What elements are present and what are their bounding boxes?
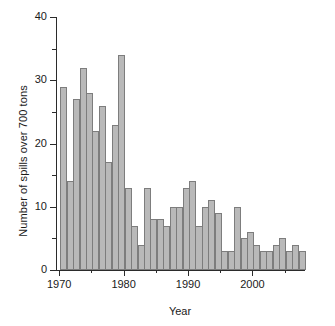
x-tick-major <box>59 270 60 276</box>
bar <box>299 251 306 270</box>
x-tick-major <box>188 270 189 276</box>
oil-spills-bar-chart: Number of spills over 700 tons 010203040… <box>0 0 335 326</box>
y-tick-label: 30 <box>17 74 47 85</box>
y-tick-label: 40 <box>17 11 47 22</box>
y-tick-label: 0 <box>17 264 47 275</box>
bar-series <box>57 17 305 270</box>
x-tick-label: 2000 <box>232 279 272 290</box>
x-tick-label: 1990 <box>168 279 208 290</box>
x-tick-minor <box>220 270 221 273</box>
x-tick-minor <box>156 270 157 273</box>
x-axis-ticks: 1970198019902000 <box>56 270 306 306</box>
x-axis-title: Year <box>56 305 304 317</box>
y-tick-label: 20 <box>17 138 47 149</box>
x-tick-label: 1970 <box>39 279 79 290</box>
x-tick-minor <box>91 270 92 273</box>
x-tick-major <box>252 270 253 276</box>
y-tick-label: 10 <box>17 201 47 212</box>
x-tick-label: 1980 <box>104 279 144 290</box>
x-tick-major <box>124 270 125 276</box>
y-axis-ticks: 010203040 <box>0 17 56 271</box>
x-tick-minor <box>285 270 286 273</box>
